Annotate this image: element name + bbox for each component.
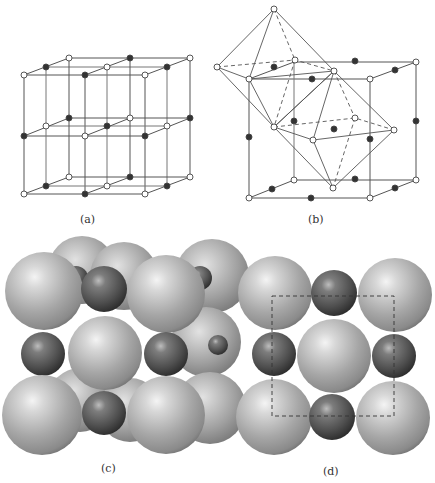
panel-d-label: (d) xyxy=(323,465,339,478)
panel-b-atoms xyxy=(214,6,419,201)
panel-c-sphere-model xyxy=(2,236,249,455)
panel-b-octahedra xyxy=(217,9,394,188)
panel-a-label: (a) xyxy=(80,213,95,226)
panel-d-sphere-model xyxy=(236,256,432,455)
figure-canvas: (a) xyxy=(0,0,435,483)
panel-b-label: (b) xyxy=(308,213,324,226)
panel-c-label: (c) xyxy=(101,462,116,475)
